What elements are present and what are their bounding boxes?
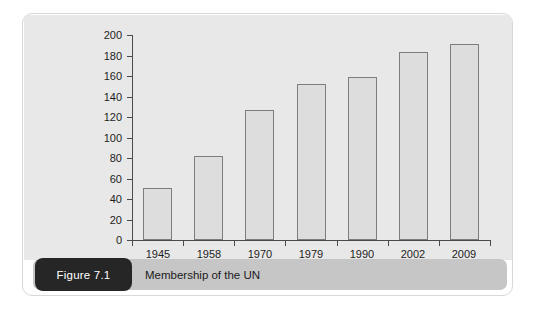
y-tick-mark bbox=[127, 56, 132, 57]
x-tick-mark bbox=[490, 241, 491, 246]
y-axis-tick-label: 200 bbox=[92, 30, 122, 41]
y-axis-tick-label: 40 bbox=[92, 194, 122, 205]
x-axis-line bbox=[132, 240, 491, 241]
y-tick-mark bbox=[127, 179, 132, 180]
y-axis-tick-label: 140 bbox=[92, 92, 122, 103]
chart-bar bbox=[348, 77, 377, 240]
figure-caption-strip: Figure 7.1 Membership of the UN bbox=[23, 258, 513, 295]
y-tick-mark bbox=[127, 138, 132, 139]
y-axis-tick-label: 60 bbox=[92, 174, 122, 185]
figure-caption-label: Membership of the UN bbox=[145, 269, 260, 281]
x-tick-mark bbox=[337, 241, 338, 246]
y-tick-mark bbox=[127, 158, 132, 159]
chart-bar bbox=[399, 52, 428, 240]
y-tick-mark bbox=[127, 97, 132, 98]
figure-card: 0204060801001201401601802001945195819701… bbox=[22, 13, 513, 296]
x-tick-mark bbox=[234, 241, 235, 246]
y-axis-tick-label: 160 bbox=[92, 71, 122, 82]
x-tick-mark bbox=[439, 241, 440, 246]
y-axis-tick-label: 0 bbox=[92, 235, 122, 246]
bar-chart: 0204060801001201401601802001945195819701… bbox=[24, 15, 513, 260]
chart-bar bbox=[245, 110, 274, 240]
y-axis-tick-label: 100 bbox=[92, 133, 122, 144]
y-axis-tick-label: 80 bbox=[92, 153, 122, 164]
x-tick-mark bbox=[132, 241, 133, 246]
y-axis-line bbox=[132, 35, 133, 241]
y-tick-mark bbox=[127, 199, 132, 200]
figure-caption: Membership of the UN bbox=[145, 258, 260, 291]
chart-bar bbox=[450, 44, 479, 240]
y-tick-mark bbox=[127, 117, 132, 118]
y-tick-mark bbox=[127, 35, 132, 36]
figure-number-badge: Figure 7.1 bbox=[35, 258, 132, 291]
y-axis-tick-label: 20 bbox=[92, 215, 122, 226]
y-tick-mark bbox=[127, 76, 132, 77]
chart-bar bbox=[143, 188, 172, 240]
x-tick-mark bbox=[388, 241, 389, 246]
chart-bar bbox=[194, 156, 223, 240]
chart-bar bbox=[297, 84, 326, 240]
x-tick-mark bbox=[183, 241, 184, 246]
y-axis-tick-label: 180 bbox=[92, 51, 122, 62]
y-tick-mark bbox=[127, 220, 132, 221]
y-axis-tick-label: 120 bbox=[92, 112, 122, 123]
x-tick-mark bbox=[285, 241, 286, 246]
figure-number-label: Figure 7.1 bbox=[57, 269, 111, 281]
chart-plot-area: 0204060801001201401601802001945195819701… bbox=[24, 15, 513, 260]
